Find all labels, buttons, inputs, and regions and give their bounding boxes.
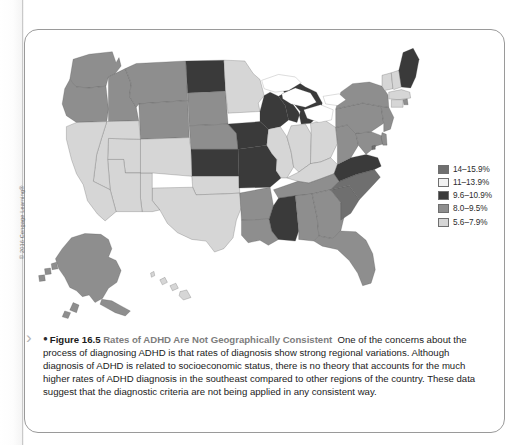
figure-caption: ●Figure 16.5 Rates of ADHD Are Not Geogr… [43,333,490,399]
legend-label-1: 11–13.9% [453,178,489,187]
state-MD[interactable] [356,132,385,155]
legend-swatch-1 [438,178,449,187]
legend-swatch-3 [438,204,449,213]
state-ND[interactable] [186,60,226,93]
legend-label-3: 8.0–9.5% [453,204,488,213]
state-OH[interactable] [310,121,337,164]
caption-bracket-icon: › [26,329,40,349]
state-VT[interactable] [382,73,393,91]
state-ME[interactable] [399,48,419,88]
caption-bullet-icon: ● [43,334,48,343]
legend-label-0: 14–15.9% [453,165,490,174]
legend-item-2[interactable]: 9.6–10.9% [438,189,508,202]
state-CO[interactable] [140,138,191,177]
state-DC[interactable] [372,145,375,150]
legend-swatch-2 [438,191,449,200]
state-RI[interactable] [403,99,408,105]
state-HI[interactable] [151,271,191,300]
state-MA[interactable] [389,90,411,100]
state-AK-aleutians[interactable] [100,299,130,316]
state-MN[interactable] [224,60,264,113]
legend-label-4: 5.6–7.9% [453,218,488,227]
state-NE[interactable] [189,124,238,149]
state-AR[interactable] [240,187,274,220]
legend-swatch-0 [438,165,449,174]
state-CT[interactable] [391,100,403,108]
legend-item-4[interactable]: 5.6–7.9% [438,216,508,229]
map-legend: 14–15.9% 11–13.9% 9.6–10.9% 8.0–9.5% 5.6… [438,163,508,229]
figure-number: Figure 16.5 [50,334,101,345]
us-map-svg [26,33,430,328]
state-WY[interactable] [139,101,190,140]
state-OK[interactable] [192,176,240,195]
state-KS[interactable] [191,149,239,176]
copyright-credit: © 2016 Cengage Learning® [19,163,25,259]
legend-label-2: 9.6–10.9% [453,191,492,200]
state-SD[interactable] [188,91,228,126]
state-FL[interactable] [314,231,375,286]
legend-item-1[interactable]: 11–13.9% [438,176,508,189]
legend-item-0[interactable]: 14–15.9% [438,163,508,176]
state-TX[interactable] [152,187,241,252]
figure-page: © 2016 Cengage Learning® [0,0,528,445]
legend-item-3[interactable]: 8.0–9.5% [438,203,508,216]
state-MT[interactable] [125,61,187,107]
legend-swatch-4 [438,218,449,227]
us-choropleth-map [26,33,430,328]
figure-title: Rates of ADHD Are Not Geographically Con… [103,334,332,345]
state-NJ[interactable] [381,106,394,131]
